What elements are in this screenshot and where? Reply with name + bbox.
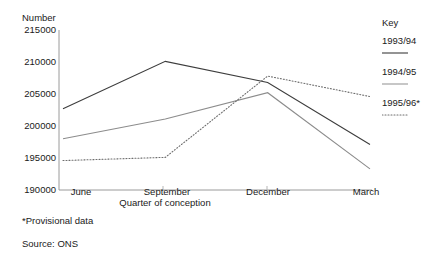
x-axis-title: Quarter of conception <box>0 197 330 208</box>
series-layer <box>63 61 370 169</box>
line-chart: Number 215000 210000 205000 200000 19500… <box>0 0 442 269</box>
legend-item-1995-96: 1995/96* <box>382 97 440 127</box>
x-tick-label: September <box>144 186 190 197</box>
legend-title: Key <box>382 17 440 28</box>
legend-swatch-1995-96 <box>382 111 408 119</box>
series-line-1994-95 <box>63 93 370 169</box>
legend-item-1993-94: 1993/94 <box>382 35 440 65</box>
footnote-provisional: *Provisional data <box>22 215 93 226</box>
legend-label: 1993/94 <box>382 35 440 46</box>
chart-legend: Key 1993/94 1994/95 1995/96* <box>382 17 440 128</box>
footnote-source: Source: ONS <box>22 238 78 249</box>
x-tick-label: December <box>246 186 290 197</box>
series-line-1993-94 <box>63 61 370 144</box>
legend-swatch-1993-94 <box>382 49 408 57</box>
series-line-1995-96- <box>63 76 370 160</box>
x-tick-label: June <box>71 186 92 197</box>
x-tick-label: March <box>353 186 379 197</box>
legend-item-1994-95: 1994/95 <box>382 66 440 96</box>
legend-label: 1995/96* <box>382 97 440 108</box>
plot-area <box>0 0 442 269</box>
legend-label: 1994/95 <box>382 66 440 77</box>
legend-swatch-1994-95 <box>382 80 408 88</box>
